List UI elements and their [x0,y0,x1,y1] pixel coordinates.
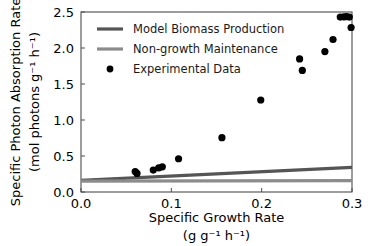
experimental-data-points [132,13,355,177]
data-point [329,36,336,43]
line-non-growth-maintenance [81,181,352,182]
y-tick-label: 1.0 [53,113,74,128]
y-axis-units-label: (mol photons g⁻¹ h⁻¹) [27,32,42,172]
x-tick-label: 0.3 [342,196,363,211]
data-point [296,55,303,62]
legend-swatch-marker [107,66,114,73]
scatter-plot: 0.00.10.20.3 0.00.51.01.52.02.5 Model Bi… [0,0,372,246]
axes-spines [81,12,352,192]
x-axis-ticks [81,188,352,192]
y-axis-label: Specific Photon Absorption Rate [8,0,23,206]
data-point [347,24,354,31]
data-point [133,170,140,177]
data-point [321,48,328,55]
figure-container: 0.00.10.20.3 0.00.51.01.52.02.5 Model Bi… [0,0,372,246]
x-axis-tick-labels: 0.00.10.20.3 [71,196,363,211]
data-point [175,155,182,162]
x-axis-units-label: (g g⁻¹ h⁻¹) [183,228,250,243]
legend: Model Biomass ProductionNon-growth Maint… [97,22,284,76]
y-tick-label: 0.5 [53,149,74,164]
plot-frame [81,12,352,192]
data-point [218,134,225,141]
y-axis-tick-labels: 0.00.51.01.52.02.5 [53,5,74,200]
x-axis-label: Specific Growth Rate [149,210,285,225]
line-model-biomass-production [81,167,352,180]
legend-label: Non-growth Maintenance [133,42,278,56]
y-tick-label: 0.0 [53,185,74,200]
data-point [257,96,264,103]
x-tick-label: 0.2 [251,196,272,211]
x-tick-label: 0.1 [161,196,182,211]
legend-label: Experimental Data [133,62,241,76]
y-tick-label: 2.0 [53,41,74,56]
y-tick-label: 2.5 [53,5,74,20]
trend-lines [81,167,352,181]
data-point [346,13,353,20]
data-point [159,163,166,170]
y-axis-ticks [81,12,85,192]
legend-label: Model Biomass Production [133,22,284,36]
y-tick-label: 1.5 [53,77,74,92]
data-point [299,67,306,74]
